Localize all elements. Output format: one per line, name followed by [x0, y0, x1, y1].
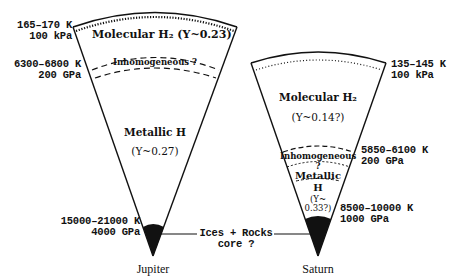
saturn-name: Saturn — [288, 262, 348, 277]
saturn-b2-pressure: 200 GPa — [361, 156, 428, 167]
saturn-metallic-label: Metallic — [290, 170, 346, 181]
core-label: Ices + Rocks core ? — [197, 228, 275, 250]
jupiter-b1-pressure: 100 kPa — [0, 31, 72, 42]
saturn-metallic-y2: 0.33?) — [290, 203, 346, 213]
saturn-b3-pressure: 1000 GPa — [340, 214, 413, 225]
jupiter-name: Jupiter — [123, 262, 183, 277]
jupiter-inhomogeneous-label: Inhomogeneous ? — [105, 57, 205, 67]
saturn-b1-pressure: 100 kPa — [391, 70, 446, 81]
saturn-boundary-3: 8500–10000 K 1000 GPa — [340, 203, 413, 225]
saturn-molecular-y-label: (Y~0.14?) — [268, 111, 368, 123]
jupiter-molecular-label: Molecular H₂ (Y~0.23) — [92, 28, 218, 41]
saturn-molecular-label: Molecular H₂ — [268, 91, 368, 103]
jupiter-metallic-label: Metallic H — [115, 126, 195, 138]
jupiter-b2-pressure: 200 GPa — [0, 70, 81, 81]
jupiter-core — [143, 224, 164, 256]
jupiter-b3-pressure: 4000 GPa — [0, 227, 140, 238]
core-label-line2: core ? — [197, 239, 275, 250]
saturn-core — [305, 216, 331, 256]
saturn-boundary-1: 135–145 K 100 kPa — [391, 59, 446, 81]
jupiter-metallic-y-label: (Y~0.27) — [115, 145, 195, 157]
jupiter-boundary-2: 6300–6800 K 200 GPa — [0, 59, 81, 81]
jupiter-boundary-3: 15000–21000 K 4000 GPa — [0, 216, 140, 238]
saturn-boundary-2: 5850–6100 K 200 GPa — [361, 145, 428, 167]
jupiter-boundary-1: 165–170 K 100 kPa — [0, 20, 72, 42]
saturn-inhomogeneous-label: Inhomogeneous — [280, 151, 356, 161]
saturn-metallic-h-label: H — [290, 182, 346, 193]
